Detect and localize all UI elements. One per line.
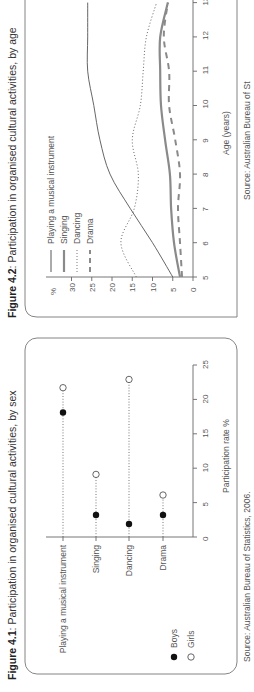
series-line-dancing [121, 3, 157, 277]
fig41-value-ticks: 0510152025 [193, 360, 210, 541]
girls-marker [126, 376, 132, 382]
age-tick-label: 7 [201, 206, 210, 211]
girls-marker [93, 471, 99, 477]
girls-marker [60, 385, 66, 391]
fig42-unit-label: % [49, 288, 58, 295]
fig42-frame [25, 0, 237, 317]
fig41-source: Source: Australian Bureau of Statistics,… [242, 491, 252, 662]
legend-marker-boys [171, 654, 177, 660]
fig42-value-ticks: 051015202530 [68, 277, 199, 292]
category-label: Drama [158, 545, 168, 571]
girls-marker [160, 492, 166, 498]
value-tick-label: 20 [201, 394, 210, 403]
value-tick-label: 10 [201, 463, 210, 472]
value-tick-label: 0 [189, 287, 198, 292]
boys-marker [126, 521, 132, 527]
age-tick-label: 13 [201, 0, 210, 6]
value-tick-label: 20 [108, 283, 117, 292]
figures-canvas: Figure 4.2: Participation in organised c… [0, 0, 254, 692]
value-tick-label: 10 [149, 283, 158, 292]
legend-label-drama: Drama [85, 218, 95, 244]
fig41-xlabel: Participation rate % [221, 419, 231, 493]
age-tick-label: 10 [201, 99, 210, 108]
fig42-title: Figure 4.2: Participation in organised c… [6, 27, 18, 318]
value-tick-label: 15 [201, 428, 210, 437]
value-tick-label: 5 [169, 287, 178, 292]
legend-label-singing: Singing [59, 215, 69, 244]
fig42-age-ticks: 5678910111213 [193, 0, 210, 280]
category-label: Dancing [124, 545, 134, 576]
value-tick-label: 25 [201, 360, 210, 369]
age-tick-label: 11 [201, 65, 210, 74]
fig41-title: Figure 4.1: Participation in organised c… [6, 390, 18, 680]
boys-marker [160, 512, 166, 518]
value-tick-label: 25 [88, 283, 97, 292]
figure-4-2: Figure 4.2: Participation in organised c… [6, 0, 252, 318]
legend-label-boys: Boys [169, 629, 179, 648]
age-tick-label: 8 [201, 172, 210, 177]
fig41-categories: Playing a musical instrumentSingingDanci… [58, 376, 168, 653]
age-tick-label: 12 [201, 30, 210, 39]
fig42-xlabel: Age (years) [221, 111, 231, 155]
value-tick-label: 5 [201, 502, 210, 507]
age-tick-label: 9 [201, 138, 210, 143]
boys-marker [60, 409, 66, 415]
fig41-legend: Boys Girls [169, 629, 196, 660]
legend-label-dancing: Dancing [72, 213, 82, 244]
value-tick-label: 15 [128, 283, 137, 292]
figure-4-1: Figure 4.1: Participation in organised c… [6, 338, 252, 680]
value-tick-label: 30 [68, 283, 77, 292]
legend-label-girls: Girls [186, 631, 196, 648]
category-label: Singing [91, 545, 101, 574]
fig42-source: Source: Australian Bureau of St [242, 81, 252, 200]
legend-label-instrument: Playing a musical instrument [46, 135, 56, 244]
value-tick-label: 0 [201, 536, 210, 541]
age-tick-label: 5 [201, 275, 210, 280]
fig42-legend: Playing a musical instrument Singing Dan… [46, 135, 95, 272]
legend-marker-girls [188, 654, 194, 660]
age-tick-label: 6 [201, 241, 210, 246]
category-label: Playing a musical instrument [58, 544, 68, 653]
boys-marker [93, 512, 99, 518]
series-line-singing [160, 3, 180, 277]
